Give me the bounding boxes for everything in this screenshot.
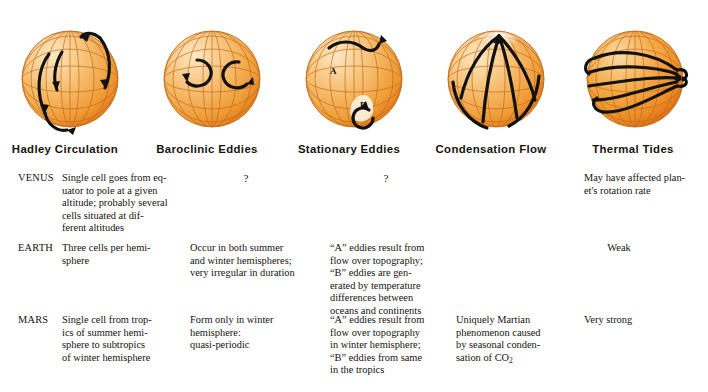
cell-mars-baroclinic: Form only in winter hemisphere: quasi-pe… xyxy=(190,314,318,352)
cell-mars-condensation-line2: phenomenon caused xyxy=(456,327,541,338)
column-header-hadley: Hadley Circulation xyxy=(0,143,140,155)
cell-mars-condensation-line1: Uniquely Martian xyxy=(456,314,530,325)
cell-mars-hadley: Single cell from trop- ics of summer hem… xyxy=(62,314,184,364)
cell-earth-stationary: “A” eddies result from flow over topogra… xyxy=(330,242,458,318)
co2-subscript: 2 xyxy=(509,356,513,365)
cell-mars-stationary: “A” eddies result from flow over topogra… xyxy=(330,314,458,377)
cell-earth-hadley: Three cells per hemi- sphere xyxy=(62,242,184,267)
condensation-flow-globe xyxy=(426,12,566,140)
sphere-with-meridional-flow-to-pole-icon xyxy=(431,12,561,140)
table-row: MARS Single cell from trop- ics of summe… xyxy=(0,314,708,380)
column-header-condensation: Condensation Flow xyxy=(416,143,566,155)
cell-mars-condensation-line3: by seasonal conden- xyxy=(456,339,540,350)
table-row: VENUS Single cell goes from eq- uator to… xyxy=(0,172,708,242)
sphere-with-labeled-A-and-B-eddies-icon: A B xyxy=(289,12,419,140)
sphere-with-meridians-and-looping-arrows-icon xyxy=(5,12,135,140)
column-header-thermal: Thermal Tides xyxy=(558,143,708,155)
column-header-row: Hadley Circulation Baroclinic Eddies Sta… xyxy=(0,143,708,161)
stationary-eddies-globe: A B xyxy=(284,12,424,140)
cell-earth-baroclinic: Occur in both summer and winter hemisphe… xyxy=(190,242,318,280)
hadley-circulation-globe xyxy=(0,12,140,140)
cell-venus-stationary: ? xyxy=(330,172,442,185)
globe-illustration-strip: A B xyxy=(0,12,708,140)
thermal-tides-globe xyxy=(568,12,708,140)
table-row: EARTH Three cells per hemi- sphere Occur… xyxy=(0,242,708,314)
svg-text:B: B xyxy=(360,100,366,110)
cell-mars-condensation: Uniquely Martianphenomenon causedby seas… xyxy=(456,314,576,367)
sphere-with-two-circular-eddy-arrows-icon xyxy=(147,12,277,140)
cell-venus-thermal: May have affected plan- et's rotation ra… xyxy=(584,172,706,197)
cell-venus-hadley: Single cell goes from eq- uator to pole … xyxy=(62,172,184,235)
column-header-stationary: Stationary Eddies xyxy=(274,143,424,155)
baroclinic-eddies-globe xyxy=(142,12,282,140)
sphere-with-zonal-bands-converging-icon xyxy=(573,12,703,140)
cell-mars-condensation-line4: sation of CO xyxy=(456,352,509,363)
svg-text:A: A xyxy=(330,66,337,76)
cell-venus-baroclinic: ? xyxy=(190,172,302,185)
cell-mars-thermal: Very strong xyxy=(584,314,706,327)
planet-comparison-table: VENUS Single cell goes from eq- uator to… xyxy=(0,172,708,380)
cell-earth-thermal: Weak xyxy=(584,242,654,255)
column-header-baroclinic: Baroclinic Eddies xyxy=(132,143,282,155)
